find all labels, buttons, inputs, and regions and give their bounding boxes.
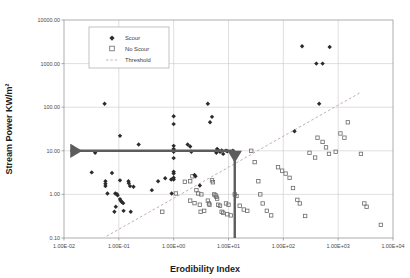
legend: Scour No Scour Threshold: [89, 27, 169, 68]
y-tick-label: 1000.00: [41, 61, 61, 67]
x-tick-label: 1.00E+02: [272, 243, 295, 249]
y-tick-label: 10000.00: [38, 17, 60, 23]
x-axis-title: Erodibility Index: [170, 264, 240, 274]
legend-label-threshold: Threshold: [125, 57, 151, 63]
chart-background: [0, 0, 410, 278]
x-tick-label: 1.00E+04: [381, 243, 404, 249]
legend-label-scour: Scour: [125, 35, 140, 41]
x-tick-label: 1.00E-02: [53, 243, 75, 249]
y-tick-label: 100.00: [44, 104, 61, 110]
y-tick-label: 0.10: [50, 235, 61, 241]
x-tick-label: 1.00E+00: [162, 243, 185, 249]
legend-label-no-scour: No Scour: [125, 46, 149, 52]
y-axis-title: Stream Power KW/m²: [4, 83, 14, 174]
x-tick-label: 1.00E-01: [108, 243, 130, 249]
x-tick-label: 1.00E+01: [217, 243, 240, 249]
y-tick-label: 10.00: [47, 148, 61, 154]
scatter-plot: 1.00E-021.00E-011.00E+001.00E+011.00E+02…: [0, 0, 410, 278]
chart-container: 1.00E-021.00E-011.00E+001.00E+011.00E+02…: [0, 0, 410, 278]
x-tick-label: 1.00E+03: [327, 243, 350, 249]
y-tick-label: 1.00: [50, 191, 61, 197]
